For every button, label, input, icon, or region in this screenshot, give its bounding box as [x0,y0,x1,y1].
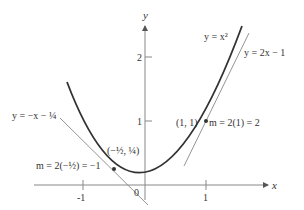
tangent-right-line [184,33,249,166]
tangent-right-label: y = 2x − 1 [244,47,285,58]
x-tick-label-neg1: -1 [77,192,85,203]
left-point-label: (−½, ¼) [107,145,139,157]
left-tangent-point [112,167,116,171]
x-tick-label-1: 1 [203,192,208,203]
y-tick-label-2: 2 [137,52,142,63]
x-tick-label-0: 0 [134,187,139,198]
tangent-left-label: y = −x − ¼ [12,110,57,121]
right-tangent-point [204,119,208,123]
right-slope-label: m = 2(1) = 2 [209,117,260,129]
x-axis-label: x [271,179,277,191]
parabola-label: y = x² [204,31,228,42]
right-point-label: (1, 1) [176,117,198,129]
tangent-lines-diagram: y x -1 0 1 1 2 y = x² y = 2x − 1 y = −x … [0,0,304,210]
left-slope-label: m = 2(−½) = −1 [36,160,101,172]
y-axis-label: y [142,9,148,21]
y-tick-label-1: 1 [137,116,142,127]
